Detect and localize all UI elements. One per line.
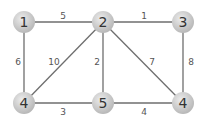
edge-weight: 10	[48, 57, 60, 67]
edge-weight: 2	[94, 57, 100, 67]
svg-text:4: 4	[20, 95, 29, 111]
svg-text:2: 2	[99, 14, 108, 30]
edge-weight: 7	[149, 57, 155, 67]
node-1: 1	[13, 11, 35, 33]
edge-weight: 1	[141, 11, 147, 21]
node-4-left: 4	[13, 92, 35, 114]
svg-text:1: 1	[20, 14, 29, 30]
weighted-graph: 5 1 6 10 2 7 8 3 4 1 2 3 4 5 4	[0, 0, 207, 122]
node-3: 3	[172, 11, 194, 33]
edge-2-4	[24, 22, 103, 103]
svg-text:4: 4	[179, 95, 188, 111]
svg-text:3: 3	[179, 14, 188, 30]
edge-weight: 8	[188, 57, 194, 67]
node-4-right: 4	[172, 92, 194, 114]
edge-weight: 3	[60, 107, 66, 117]
node-2: 2	[92, 11, 114, 33]
edge-weight: 6	[15, 57, 21, 67]
edge-weight: 5	[60, 11, 66, 21]
edge-weight: 4	[141, 107, 147, 117]
edge-2-4b	[103, 22, 183, 103]
svg-text:5: 5	[99, 95, 108, 111]
node-5: 5	[92, 92, 114, 114]
